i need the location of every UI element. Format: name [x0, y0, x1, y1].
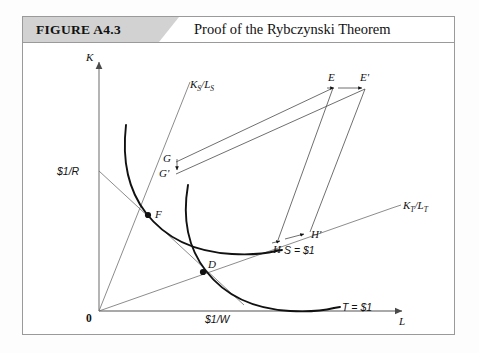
point-H-label: H: [272, 243, 282, 255]
x-axis-label: L: [398, 315, 405, 327]
textile-ray-label-leader: [392, 205, 401, 208]
ray-steel-label: KS/LS: [189, 78, 214, 93]
shift-arrow-H-to-Hprime: [285, 234, 304, 239]
wage-intercept-label: $1/W: [204, 313, 231, 325]
point-F-marker: [145, 212, 151, 218]
point-H-prime-label: H': [310, 228, 322, 240]
ray-textile-label: KT/LT: [402, 199, 429, 214]
point-G-label: G: [163, 152, 171, 164]
textile-label-leader: [334, 307, 340, 308]
shift-arrows-group: [177, 88, 362, 243]
figure-root: FIGURE A4.3 Proof of the Rybczynski Theo…: [0, 0, 479, 353]
isocost-line-original: [99, 171, 244, 305]
ray-steel-capital-labor: [99, 82, 190, 311]
ray-textile-label-group: KT/LT: [402, 199, 429, 214]
rybczynski-diagram: K L 0 $1/R $1/W KS/LS KT/LT S = $1 T = $…: [0, 0, 479, 353]
capital-rental-intercept-label: $1/R: [56, 165, 80, 177]
ray-textile-denominator: L: [417, 199, 424, 211]
y-axis-label: K: [85, 51, 94, 63]
point-F-label: F: [154, 208, 162, 220]
allocation-parallelogram-new: [176, 89, 365, 232]
isocost-lines-group: [99, 171, 244, 305]
parallelogram-side-E-H: [278, 88, 333, 240]
point-E-label: E: [327, 71, 335, 83]
label-leaders-group: [276, 205, 401, 308]
point-G-prime-label: G': [159, 167, 170, 179]
textile-isoquant-label: T = $1: [342, 301, 372, 313]
ray-steel-denominator: L: [203, 78, 210, 90]
steel-isoquant-label: S = $1: [284, 244, 315, 256]
ray-textile-denominator-sub: T: [424, 205, 429, 214]
point-D-marker: [200, 269, 206, 275]
factor-ray-group: [99, 82, 392, 311]
ray-steel-denominator-sub: S: [210, 84, 214, 93]
point-D-label: D: [207, 258, 216, 270]
axes-group: [99, 62, 402, 311]
text-labels-group: K L 0 $1/R $1/W KS/LS KT/LT S = $1 T = $…: [56, 51, 429, 327]
allocation-parallelogram-original: [176, 88, 333, 240]
ray-steel-label-group: KS/LS: [189, 78, 214, 93]
point-E-prime-label: E': [359, 71, 370, 83]
origin-label: 0: [86, 312, 92, 324]
ray-textile-capital-labor: [99, 208, 392, 311]
parallelogram-new-side-Gp-Ep: [176, 89, 365, 174]
parallelogram-side-G-E: [176, 88, 333, 162]
